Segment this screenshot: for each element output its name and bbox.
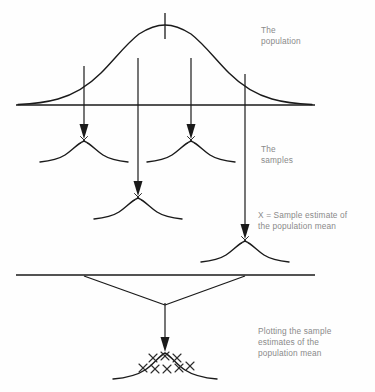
x-plot-mark bbox=[186, 362, 194, 370]
arrowhead-icon bbox=[161, 337, 170, 352]
caption-plotting-line2: estimates of the bbox=[258, 337, 319, 347]
x-plot-mark bbox=[149, 354, 157, 362]
sample-curve-3 bbox=[94, 198, 182, 219]
sampling-arrow-2 bbox=[134, 58, 143, 196]
sampling-distribution-diagram: The population The samples X = Sample es… bbox=[0, 0, 375, 392]
sampling-arrow-4 bbox=[241, 74, 250, 239]
caption-plotting-line3: population mean bbox=[258, 348, 322, 358]
sample-curve-4-group bbox=[201, 237, 289, 263]
caption-legend-line1: X = Sample estimate of bbox=[258, 210, 348, 220]
sampling-distribution-curve bbox=[113, 353, 217, 379]
sample-curve-4 bbox=[201, 241, 289, 262]
sampling-distribution-group bbox=[113, 352, 217, 379]
caption-plotting: Plotting the sample estimates of the pop… bbox=[258, 326, 332, 358]
funnel-right-edge bbox=[165, 276, 245, 305]
sample-curve-1 bbox=[40, 141, 128, 162]
caption-samples-line2: samples bbox=[261, 155, 293, 165]
x-plot-mark bbox=[151, 365, 159, 373]
x-plot-mark bbox=[163, 365, 171, 373]
caption-population-line1: The bbox=[261, 25, 276, 35]
sample-mean-x-cluster bbox=[139, 352, 194, 373]
sampling-arrow-1 bbox=[80, 66, 89, 139]
x-plot-mark bbox=[173, 354, 181, 362]
sampling-arrow-3 bbox=[187, 58, 196, 139]
diagram-canvas: The population The samples X = Sample es… bbox=[0, 0, 375, 392]
sample-curve-2 bbox=[147, 141, 235, 162]
sample-curve-1-group bbox=[40, 137, 128, 163]
funnel-output-arrow bbox=[161, 303, 170, 352]
caption-legend-line2: the population mean bbox=[258, 221, 336, 231]
sample-curve-2-group bbox=[147, 137, 235, 163]
caption-samples: The samples bbox=[261, 144, 293, 165]
funnel-left-edge bbox=[84, 276, 165, 305]
caption-plotting-line1: Plotting the sample bbox=[258, 326, 332, 336]
caption-legend: X = Sample estimate of the population me… bbox=[258, 210, 348, 231]
caption-population-line2: population bbox=[261, 36, 301, 46]
caption-samples-line1: The bbox=[261, 144, 276, 154]
sample-curve-3-group bbox=[94, 194, 182, 220]
caption-population: The population bbox=[261, 25, 301, 46]
sampling-arrows-group bbox=[80, 58, 250, 239]
